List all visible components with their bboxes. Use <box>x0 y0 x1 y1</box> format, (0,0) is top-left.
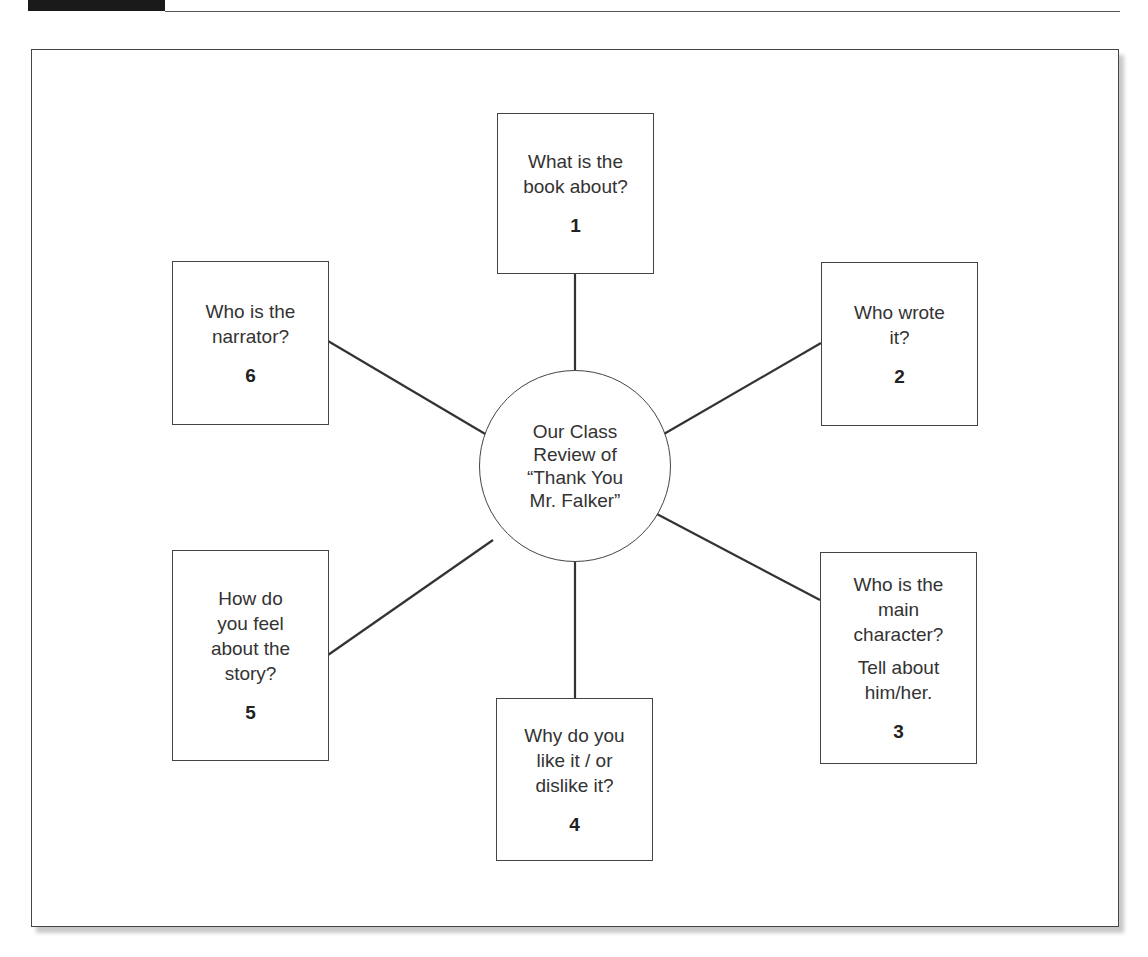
node-question-extra: Tell about him/her. <box>858 655 939 705</box>
node-question: Why do you like it / or dislike it? <box>524 723 624 798</box>
node-number: 1 <box>570 213 581 238</box>
node-question: Who wrote it? <box>854 300 945 350</box>
node-1: What is the book about? 1 <box>497 113 654 274</box>
node-question: Who is the narrator? <box>206 299 296 349</box>
connector-3 <box>655 513 820 600</box>
node-3: Who is the main character? Tell about hi… <box>820 552 977 764</box>
node-question: What is the book about? <box>523 149 628 199</box>
node-5: How do you feel about the story? 5 <box>172 550 329 761</box>
node-question: Who is the main character? <box>854 572 944 647</box>
node-number: 2 <box>894 364 905 389</box>
node-2: Who wrote it? 2 <box>821 262 978 426</box>
node-number: 6 <box>245 363 256 388</box>
connector-5 <box>328 540 493 655</box>
node-question: How do you feel about the story? <box>211 586 290 686</box>
connector-2 <box>657 343 821 438</box>
node-number: 3 <box>893 719 904 744</box>
center-topic: Our Class Review of “Thank You Mr. Falke… <box>479 370 671 562</box>
connector-6 <box>328 341 492 438</box>
node-6: Who is the narrator? 6 <box>172 261 329 425</box>
node-number: 5 <box>245 700 256 725</box>
node-4: Why do you like it / or dislike it? 4 <box>496 698 653 861</box>
node-number: 4 <box>569 812 580 837</box>
